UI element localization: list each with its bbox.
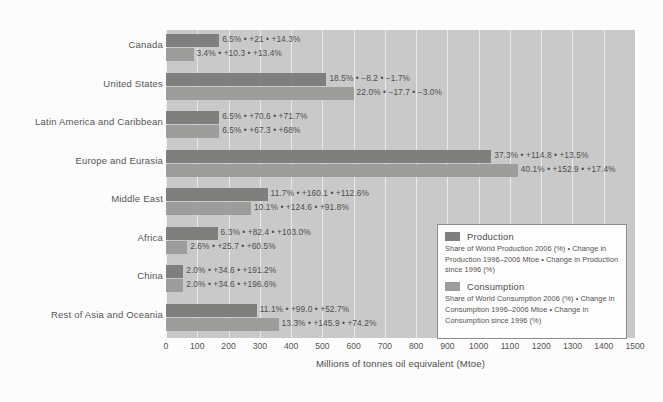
x-axis-tick: 900	[440, 341, 454, 351]
bar-value-label: 13.3% • +145.9 • +74.2%	[279, 317, 377, 330]
bar-consumption	[166, 125, 219, 138]
category-label: United States	[0, 78, 163, 89]
category-label: Middle East	[0, 193, 163, 204]
bar-value-label: 11.7% • +160.1 • +112.6%	[268, 187, 369, 200]
bar-production	[166, 265, 183, 278]
legend-swatch-consumption-icon	[445, 282, 460, 291]
bar-production	[166, 227, 218, 240]
chart-figure: Canada6.5% • +21 • +14.3%3.4% • +10.3 • …	[0, 0, 663, 402]
x-axis-tick: 1300	[563, 341, 582, 351]
category-label: China	[0, 270, 163, 281]
bar-production	[166, 73, 326, 86]
bar-consumption	[166, 279, 183, 292]
x-axis-label: Millions of tonnes oil equivalent (Mtoe)	[166, 358, 635, 369]
x-axis-tick: 1200	[532, 341, 551, 351]
bar-value-label: 3.4% • +10.3 • +13.4%	[194, 47, 282, 60]
x-axis-tick: 700	[378, 341, 392, 351]
x-axis-tick: 1500	[625, 341, 644, 351]
x-axis-tick: 500	[315, 341, 329, 351]
bar-row: Europe and Eurasia37.3% • +114.8 • +13.5…	[0, 146, 663, 184]
legend-head-production: Production	[445, 231, 619, 242]
legend-description-production: Share of World Production 2006 (%) • Cha…	[445, 244, 619, 276]
bar-row: United States18.5% • −8.2 • −1.7%22.0% •…	[0, 69, 663, 107]
bar-production	[166, 34, 219, 47]
category-label: Latin America and Caribbean	[0, 116, 163, 127]
bar-consumption	[166, 241, 187, 254]
bar-value-label: 18.5% • −8.2 • −1.7%	[326, 72, 410, 85]
bar-value-label: 6.5% • +21 • +14.3%	[219, 33, 300, 46]
x-axis-tick: 1400	[594, 341, 613, 351]
x-axis-tick: 1100	[501, 341, 519, 351]
bar-production	[166, 304, 257, 317]
bar-production	[166, 150, 491, 163]
bar-value-label: 22.0% • −17.7 • −3.0%	[354, 86, 442, 99]
bar-consumption	[166, 202, 251, 215]
legend-entry-consumption: Consumption Share of World Consumption 2…	[445, 281, 619, 326]
legend-title-production: Production	[467, 231, 514, 242]
bar-value-label: 40.1% • +152.9 • +17.4%	[518, 163, 616, 176]
x-axis-tick: 200	[221, 341, 235, 351]
bar-row: Latin America and Caribbean6.5% • +70.6 …	[0, 107, 663, 145]
bar-consumption	[166, 87, 354, 100]
x-axis-tick: 400	[284, 341, 298, 351]
bar-value-label: 6.5% • +67.3 • +68%	[219, 124, 300, 137]
legend-title-consumption: Consumption	[467, 281, 524, 292]
category-label: Africa	[0, 232, 163, 243]
bar-consumption	[166, 48, 194, 61]
bar-consumption	[166, 164, 518, 177]
bar-row: Middle East11.7% • +160.1 • +112.6%10.1%…	[0, 184, 663, 222]
bar-production	[166, 188, 268, 201]
x-axis-tick: 300	[253, 341, 267, 351]
bar-production	[166, 111, 219, 124]
bar-value-label: 6.3% • +82.4 • +103.0%	[218, 226, 311, 239]
x-axis-tick: 0	[164, 341, 169, 351]
x-axis: 0100200300400500600700800900100011001200…	[166, 338, 635, 358]
legend-entry-production: Production Share of World Production 200…	[445, 231, 619, 276]
bar-consumption	[166, 318, 279, 331]
chart-legend: Production Share of World Production 200…	[437, 224, 627, 339]
x-axis-tick: 800	[409, 341, 423, 351]
bar-value-label: 10.1% • +124.6 • +91.8%	[251, 201, 349, 214]
x-axis-tick: 100	[190, 341, 204, 351]
legend-swatch-production-icon	[445, 232, 460, 241]
bar-row: Canada6.5% • +21 • +14.3%3.4% • +10.3 • …	[0, 30, 663, 68]
bar-value-label: 2.0% • +34.6 • +196.6%	[183, 278, 276, 291]
bar-value-label: 2.6% • +25.7 • +60.5%	[187, 240, 275, 253]
category-label: Rest of Asia and Oceania	[0, 309, 163, 320]
bar-value-label: 37.3% • +114.8 • +13.5%	[491, 149, 588, 162]
legend-description-consumption: Share of World Consumption 2006 (%) • Ch…	[445, 294, 619, 326]
bar-value-label: 6.5% • +70.6 • +71.7%	[219, 110, 307, 123]
bar-value-label: 2.0% • +34.6 • +191.2%	[183, 264, 276, 277]
x-axis-tick: 1000	[469, 341, 488, 351]
x-axis-tick: 600	[346, 341, 360, 351]
legend-head-consumption: Consumption	[445, 281, 619, 292]
category-label: Canada	[0, 39, 163, 50]
category-label: Europe and Eurasia	[0, 155, 163, 166]
bar-value-label: 11.1% • +99.0 • +52.7%	[257, 303, 350, 316]
